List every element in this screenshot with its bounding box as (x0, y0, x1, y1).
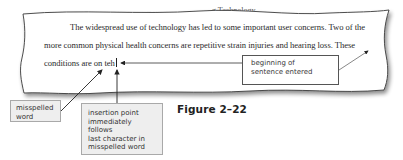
document-line-1: The widespread use of technology has led… (70, 22, 365, 32)
callout-insertion-line-4: misspelled word (88, 143, 156, 152)
callout-sentence-line-1: beginning of (251, 59, 338, 68)
insertion-point-cursor (116, 58, 117, 67)
callout-sentence-line-2: sentence entered (251, 68, 338, 77)
callout-misspelled-word: misspelled word (10, 100, 61, 122)
callout-insertion-point: insertion point immediately follows last… (81, 103, 163, 155)
figure-caption: Figure 2–22 (177, 103, 247, 115)
callout-insertion-line-3: last character in (88, 135, 156, 144)
cut-off-heading: g Technology (212, 4, 292, 11)
document-line-3[interactable]: conditions are on teh (44, 58, 117, 68)
callout-insertion-line-2: immediately follows (88, 118, 156, 135)
document-line-2: more common physical health concerns are… (44, 40, 355, 50)
callout-misspelled-line-1: misspelled (16, 104, 55, 113)
callout-insertion-line-1: insertion point (88, 109, 156, 118)
callout-misspelled-line-2: word (16, 113, 55, 122)
document-line-3-text: conditions are on teh (44, 58, 115, 68)
callout-sentence-entered: beginning of sentence entered (242, 55, 339, 85)
